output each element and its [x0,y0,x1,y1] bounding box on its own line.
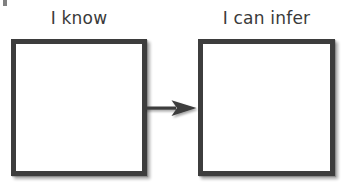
column-label-i-know: I know [11,7,147,29]
column-label-i-can-infer: I can infer [198,7,335,29]
organizer-box-i-can-infer[interactable] [198,39,335,176]
arrow-right-icon [142,92,200,124]
graphic-organizer-canvas: I know I can infer [0,0,344,190]
corner-artifact-speck [3,0,7,6]
organizer-box-i-know[interactable] [11,39,147,176]
